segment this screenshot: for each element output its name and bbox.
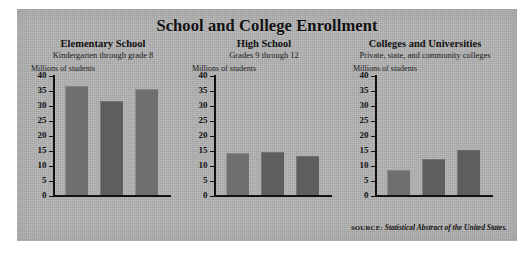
plot-area: 40 35 30 25 20 15 10 5 0 1970 1980 [375,75,493,197]
y-tick-label: 25 [38,115,47,125]
panel-title: Colleges and Universities [345,38,505,49]
chart-panel-colleges-and-universities: Colleges and Universities Private, state… [345,38,505,238]
page-title: School and College Enrollment [17,16,517,36]
plot-area: 40 35 30 25 20 15 10 5 0 1970 1980 [53,75,171,197]
y-tick-label: 10 [38,160,47,170]
x-axis-line [375,195,493,197]
y-tick-label: 15 [38,145,47,155]
y-tick-label: 15 [360,145,369,155]
x-axis-line [214,195,332,197]
bar-group: 1970 1980 1992 [377,75,493,195]
y-tick-label: 40 [38,70,47,80]
bar-1970[interactable] [65,86,88,196]
y-tick-label: 15 [199,145,208,155]
chart-panel-elementary-school: Elementary School Kindergarten through g… [23,38,183,238]
y-tick-label: 30 [38,100,47,110]
y-tick-label: 5 [203,175,208,185]
bar-1992[interactable] [296,156,319,195]
panel-subtitle: Kindergarten through grade 8 [23,50,183,60]
y-tick-label: 0 [203,190,208,200]
figure-panel: School and College Enrollment Elementary… [17,9,517,241]
y-tick-label: 40 [360,70,369,80]
bar-1970[interactable] [387,170,410,196]
y-tick-label: 20 [199,130,208,140]
y-tick-label: 30 [199,100,208,110]
y-tick-label: 5 [42,175,47,185]
y-tick-label: 10 [199,160,208,170]
y-tick-label: 25 [199,115,208,125]
bar-1980[interactable] [422,159,445,195]
bar-1980[interactable] [261,152,284,196]
y-tick-label: 0 [364,190,369,200]
y-tick-label: 20 [360,130,369,140]
y-tick-label: 10 [360,160,369,170]
panel-subtitle: Grades 9 through 12 [184,50,344,60]
y-tick-label: 5 [364,175,369,185]
source-note: SOURCE: Statistical Abstract of the Unit… [351,223,507,232]
y-tick-label: 30 [360,100,369,110]
y-tick-label: 35 [38,85,47,95]
panel-title: Elementary School [23,38,183,49]
y-tick-label: 40 [199,70,208,80]
panel-subtitle: Private, state, and community colleges [345,50,505,60]
bar-1980[interactable] [100,101,123,196]
bar-1992[interactable] [135,89,158,196]
y-tick-label: 35 [360,85,369,95]
y-tick-label: 35 [199,85,208,95]
plot-area: 40 35 30 25 20 15 10 5 0 1970 1980 [214,75,332,197]
x-axis-line [53,195,171,197]
chart-panel-high-school: High School Grades 9 through 12 Millions… [184,38,344,238]
bar-group: 1970 1980 1992 [216,75,332,195]
bar-group: 1970 1980 1992 [55,75,171,195]
y-tick-label: 20 [38,130,47,140]
panel-title: High School [184,38,344,49]
source-text: Statistical Abstract of the United State… [385,223,507,232]
bar-1970[interactable] [226,153,249,195]
y-tick-label: 0 [42,190,47,200]
bar-1992[interactable] [457,150,480,195]
y-tick-label: 25 [360,115,369,125]
source-label: SOURCE: [351,224,383,231]
